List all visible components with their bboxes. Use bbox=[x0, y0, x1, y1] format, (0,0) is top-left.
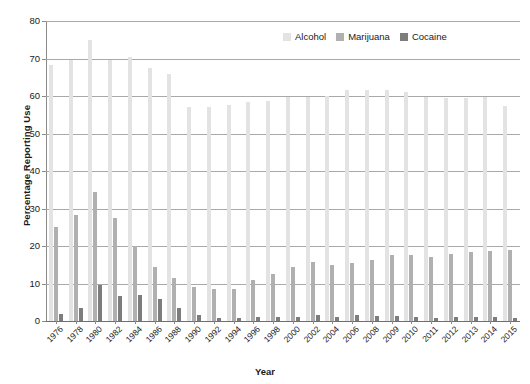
y-tick-mark bbox=[42, 246, 46, 247]
y-tick-mark bbox=[42, 171, 46, 172]
legend-item-alcohol: Alcohol bbox=[283, 31, 326, 42]
y-tick-label: 50 bbox=[8, 129, 40, 139]
bar-cocaine-2012 bbox=[454, 317, 458, 321]
bar-cocaine-1990 bbox=[197, 315, 201, 321]
x-tick-label: 2015 bbox=[494, 324, 519, 349]
bar-cocaine-2014 bbox=[493, 317, 497, 321]
bar-marijuana-1976 bbox=[54, 227, 58, 321]
bar-marijuana-1996 bbox=[251, 280, 255, 321]
bar-group bbox=[365, 21, 379, 321]
bar-marijuana-2010 bbox=[409, 255, 413, 321]
plot-area: 01020304050607080 bbox=[46, 21, 520, 321]
bar-cocaine-1984 bbox=[138, 295, 142, 321]
bar-group bbox=[424, 21, 438, 321]
bar-group bbox=[404, 21, 418, 321]
y-tick-label: 20 bbox=[8, 241, 40, 251]
bar-group bbox=[345, 21, 359, 321]
bar-group bbox=[49, 21, 63, 321]
bar-cocaine-2015 bbox=[513, 318, 517, 321]
bar-marijuana-2000 bbox=[291, 267, 295, 321]
y-tick-mark bbox=[42, 321, 46, 322]
bar-marijuana-2012 bbox=[449, 254, 453, 321]
bar-alcohol-1980 bbox=[88, 40, 92, 321]
bar-cocaine-2006 bbox=[355, 315, 359, 321]
bar-marijuana-1986 bbox=[153, 267, 157, 321]
x-tick-label: 2006 bbox=[336, 324, 361, 349]
bar-alcohol-1976 bbox=[49, 65, 53, 321]
bar-marijuana-1998 bbox=[271, 274, 275, 321]
bar-marijuana-1992 bbox=[212, 289, 216, 321]
bar-marijuana-1982 bbox=[113, 218, 117, 321]
bar-cocaine-1996 bbox=[256, 317, 260, 321]
bar-cocaine-1978 bbox=[79, 308, 83, 321]
bar-alcohol-2012 bbox=[444, 98, 448, 321]
bar-marijuana-1990 bbox=[192, 287, 196, 321]
bar-alcohol-2011 bbox=[424, 97, 428, 321]
bar-alcohol-2002 bbox=[306, 97, 310, 321]
x-tick-label: 1992 bbox=[197, 324, 222, 349]
bar-group bbox=[128, 21, 142, 321]
bar-chart: Percentage Reporting Use 010203040506070… bbox=[0, 0, 530, 384]
y-tick-label: 60 bbox=[8, 91, 40, 101]
y-tick-label: 40 bbox=[8, 166, 40, 176]
legend-item-marijuana: Marijuana bbox=[336, 31, 390, 42]
x-tick-label: 1976 bbox=[39, 324, 64, 349]
bar-marijuana-1994 bbox=[232, 289, 236, 321]
bar-cocaine-2004 bbox=[335, 317, 339, 321]
bar-group bbox=[187, 21, 201, 321]
bar-marijuana-2009 bbox=[390, 255, 394, 321]
bar-alcohol-1978 bbox=[69, 60, 73, 321]
bar-cocaine-1988 bbox=[177, 308, 181, 321]
bar-cocaine-1994 bbox=[237, 318, 241, 321]
bar-marijuana-1984 bbox=[133, 246, 137, 321]
bar-group bbox=[385, 21, 399, 321]
bar-group bbox=[69, 21, 83, 321]
bar-alcohol-1998 bbox=[266, 101, 270, 321]
bar-cocaine-2013 bbox=[474, 317, 478, 321]
bar-group bbox=[266, 21, 280, 321]
bar-marijuana-2004 bbox=[330, 265, 334, 321]
bar-alcohol-1990 bbox=[187, 107, 191, 321]
bar-alcohol-1992 bbox=[207, 107, 211, 322]
bar-group bbox=[88, 21, 102, 321]
legend-label: Alcohol bbox=[295, 31, 326, 42]
bar-cocaine-2008 bbox=[375, 316, 379, 321]
bar-alcohol-2014 bbox=[483, 97, 487, 321]
bar-alcohol-2009 bbox=[385, 90, 389, 321]
bar-cocaine-1998 bbox=[276, 317, 280, 322]
x-tick-label: 1998 bbox=[257, 324, 282, 349]
y-tick-mark bbox=[42, 21, 46, 22]
bar-marijuana-1980 bbox=[93, 192, 97, 321]
bar-group bbox=[246, 21, 260, 321]
bar-cocaine-1986 bbox=[158, 299, 162, 322]
bar-alcohol-1986 bbox=[148, 68, 152, 322]
bar-marijuana-2014 bbox=[488, 251, 492, 321]
legend-item-cocaine: Cocaine bbox=[400, 31, 447, 42]
bar-group bbox=[483, 21, 497, 321]
bar-cocaine-1992 bbox=[217, 318, 221, 321]
bar-cocaine-2011 bbox=[434, 318, 438, 321]
bar-group bbox=[167, 21, 181, 321]
bar-alcohol-1996 bbox=[246, 102, 250, 321]
bar-group bbox=[306, 21, 320, 321]
bar-group bbox=[286, 21, 300, 321]
y-tick-mark bbox=[42, 209, 46, 210]
bar-alcohol-1994 bbox=[227, 105, 231, 321]
x-tick-label: 1990 bbox=[178, 324, 203, 349]
bar-marijuana-2006 bbox=[350, 263, 354, 322]
bar-alcohol-1988 bbox=[167, 74, 171, 321]
bar-marijuana-2008 bbox=[370, 260, 374, 321]
y-tick-mark bbox=[42, 284, 46, 285]
bar-group bbox=[108, 21, 122, 321]
bar-alcohol-2006 bbox=[345, 90, 349, 321]
chart-legend: AlcoholMarijuanaCocaine bbox=[283, 31, 447, 42]
bar-alcohol-2015 bbox=[503, 106, 507, 321]
bar-alcohol-1982 bbox=[108, 60, 112, 321]
bar-cocaine-2000 bbox=[296, 317, 300, 322]
y-tick-mark bbox=[42, 134, 46, 135]
bar-group bbox=[503, 21, 517, 321]
legend-label: Marijuana bbox=[348, 31, 390, 42]
bar-marijuana-2011 bbox=[429, 257, 433, 322]
bar-group bbox=[325, 21, 339, 321]
x-tick-label: 2012 bbox=[434, 324, 459, 349]
